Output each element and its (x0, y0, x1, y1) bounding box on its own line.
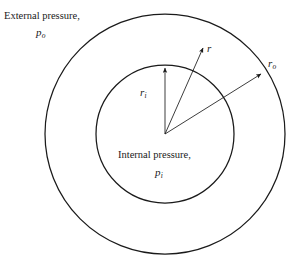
external-pressure-symbol: po (36, 26, 45, 39)
inner-radius-label-base: r (140, 86, 144, 98)
internal-pressure-symbol-subscript: i (161, 171, 163, 180)
radius-label: r (207, 42, 211, 55)
outer-radius-label-base: r (268, 57, 272, 69)
radius-label-base: r (207, 42, 211, 54)
outer-radius-label: ro (268, 57, 276, 70)
internal-pressure-symbol-base: p (155, 166, 161, 178)
inner-radius-label-subscript: i (145, 91, 147, 100)
internal-pressure-symbol: pi (155, 166, 163, 179)
outer-radius-label-subscript: o (273, 62, 277, 71)
external-pressure-symbol-base: p (36, 26, 42, 38)
external-pressure-label: External pressure, (4, 10, 80, 22)
inner-radius-label: ri (140, 86, 146, 99)
outer-radius-arrow (165, 74, 261, 134)
radius-arrow (165, 48, 203, 134)
internal-pressure-label: Internal pressure, (118, 149, 191, 161)
figure-container: External pressure, po Internal pressure,… (0, 0, 291, 265)
external-pressure-symbol-subscript: o (42, 31, 46, 40)
